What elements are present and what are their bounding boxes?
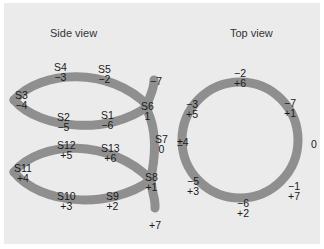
top-view-title: Top view bbox=[230, 27, 273, 39]
label-s9: S9+2 bbox=[106, 191, 119, 211]
label-s13: S13+6 bbox=[101, 143, 120, 163]
top-label-c: −7+1 bbox=[284, 98, 296, 118]
label-s1: S1−6 bbox=[101, 110, 114, 130]
label-stem-bottom: +7 bbox=[149, 220, 161, 230]
coil-diagram-graphic bbox=[0, 0, 324, 249]
top-label-f: −5+3 bbox=[187, 176, 199, 196]
label-s2: S2−5 bbox=[57, 112, 70, 132]
label-stem-top: −7 bbox=[150, 76, 162, 86]
label-s6: S61 bbox=[141, 101, 154, 121]
top-label-e: 0 bbox=[311, 139, 317, 149]
top-label-d: ±4 bbox=[177, 137, 189, 147]
top-view-ring bbox=[182, 82, 298, 198]
upper-loop-bottom-arc bbox=[14, 100, 148, 125]
top-label-b: −3+5 bbox=[186, 99, 198, 119]
lower-loop-bottom-arc bbox=[14, 172, 151, 200]
top-label-a: −2+6 bbox=[234, 68, 246, 88]
label-s7: S70 bbox=[155, 134, 168, 154]
label-s10: S10+3 bbox=[57, 191, 76, 211]
label-s8: S8+1 bbox=[145, 172, 158, 192]
label-s12: S12+5 bbox=[57, 140, 76, 160]
top-label-g: −1+7 bbox=[288, 181, 300, 201]
side-view-title: Side view bbox=[50, 27, 97, 39]
upper-loop-top-arc bbox=[14, 77, 148, 106]
label-s4: S4−3 bbox=[54, 62, 67, 82]
label-s11: S11+4 bbox=[14, 163, 32, 183]
label-s3: S3−4 bbox=[15, 90, 28, 110]
label-s5: S5−2 bbox=[98, 64, 111, 84]
lower-loop-top-arc bbox=[14, 148, 151, 180]
top-label-h: −6+2 bbox=[237, 198, 249, 218]
